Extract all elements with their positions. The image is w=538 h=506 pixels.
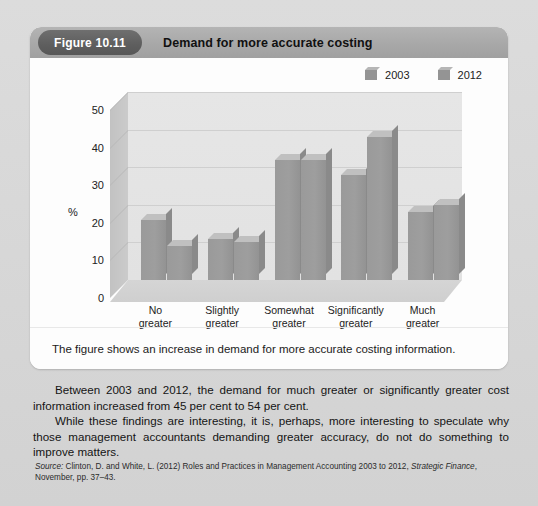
bar-group	[328, 92, 395, 280]
y-axis-tick: 10	[92, 254, 104, 266]
bar-2003-no-greater	[141, 220, 166, 280]
legend-swatch-icon	[365, 70, 377, 80]
source-publication: Strategic Finance	[411, 462, 475, 471]
bar-2012-slightly-greater	[234, 242, 259, 280]
bar-group	[128, 92, 195, 280]
x-axis-label-line: No	[149, 304, 162, 316]
y-axis-tick: 40	[92, 142, 104, 154]
legend-label: 2012	[458, 69, 482, 81]
chart-legend: 2003 2012	[365, 69, 482, 81]
legend-item-2003: 2003	[365, 69, 409, 81]
bar-2012-much-greater	[434, 205, 459, 280]
bar-2003-somewhat-greater	[275, 160, 300, 280]
plot-floor	[110, 280, 462, 302]
bar-group	[262, 92, 329, 280]
bar-side-face	[326, 148, 332, 274]
source-citation: Source: Clinton, D. and White, L. (2012)…	[35, 461, 509, 483]
y-axis-ticks: 01020304050	[76, 88, 104, 338]
bar-side-face	[259, 230, 265, 274]
y-axis-tick: 20	[92, 217, 104, 229]
bar-2012-significantly-greater	[367, 137, 392, 280]
bar-series-container	[128, 92, 462, 280]
figure-caption: The figure shows an increase in demand f…	[30, 327, 508, 369]
bar-2012-somewhat-greater	[301, 160, 326, 280]
bar-chart: % 01020304050 NogreaterSlightlygreaterSo…	[30, 88, 508, 338]
figure-title: Demand for more accurate costing	[163, 27, 373, 58]
bar-side-face	[192, 234, 198, 274]
y-axis-tick: 0	[98, 292, 104, 304]
x-axis-label-line: Somewhat	[264, 304, 314, 316]
legend-label: 2003	[385, 69, 409, 81]
bar-group	[195, 92, 262, 280]
source-text-before: Clinton, D. and White, L. (2012) Roles a…	[63, 462, 411, 471]
bar-2012-no-greater	[167, 246, 192, 280]
source-prefix: Source:	[35, 462, 63, 471]
bar-2003-significantly-greater	[341, 175, 366, 280]
bar-2003-slightly-greater	[208, 239, 233, 280]
y-axis-tick: 30	[92, 179, 104, 191]
x-axis-label-line: Much	[410, 304, 436, 316]
body-text: Between 2003 and 2012, the demand for mu…	[33, 382, 509, 460]
body-paragraph-2: While these findings are interesting, it…	[33, 413, 509, 460]
plot-area	[110, 92, 462, 314]
figure-card: Figure 10.11 Demand for more accurate co…	[30, 27, 508, 369]
plot-side-wall	[110, 92, 128, 298]
page-background: Figure 10.11 Demand for more accurate co…	[0, 0, 538, 506]
body-paragraph-1: Between 2003 and 2012, the demand for mu…	[33, 382, 509, 413]
y-axis-tick: 50	[92, 104, 104, 116]
x-axis-label-line: Slightly	[205, 304, 239, 316]
figure-number-badge: Figure 10.11	[38, 30, 142, 55]
bar-2003-much-greater	[408, 212, 433, 280]
legend-item-2012: 2012	[438, 69, 482, 81]
bar-side-face	[392, 125, 398, 274]
figure-header: Figure 10.11 Demand for more accurate co…	[30, 27, 508, 58]
x-axis-label-line: Significantly	[328, 304, 384, 316]
bar-group	[395, 92, 462, 280]
figure-body: 2003 2012 % 01020304050 NogreaterSligh	[30, 58, 508, 369]
legend-swatch-icon	[438, 70, 450, 80]
bar-side-face	[459, 193, 465, 274]
